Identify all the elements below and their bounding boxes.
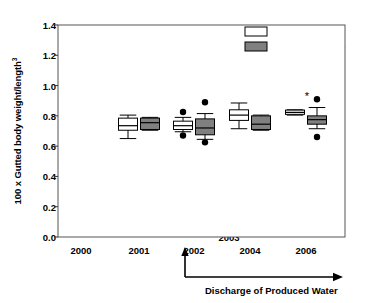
box-iqr [252,116,271,130]
boxplot-development-site-2001 [141,117,160,130]
significance-marker: * [305,90,310,102]
plot-area: * [0,0,365,303]
outlier-point [314,96,320,102]
outlier-point [180,109,186,115]
box-iqr [119,118,138,130]
chart-figure: 100 x Gutted body weight/length3 0.0 0.2… [0,0,365,303]
discharge-arrow [181,247,343,281]
discharge-arrow-head-up [181,247,188,256]
legend-swatch-reference [245,27,267,36]
outlier-point [202,139,208,145]
outlier-point [202,99,208,105]
outlier-point [180,132,186,138]
y-tick-marks [54,25,58,237]
outlier-point [314,134,320,140]
discharge-arrow-head-right [333,273,343,281]
box-iqr [141,118,160,129]
box-iqr [196,119,215,135]
boxplot-development-site-2004 [252,115,271,130]
legend-swatch-development [245,42,267,51]
